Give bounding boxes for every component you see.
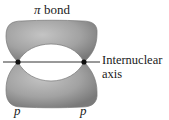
internuclear-axis-label: Internuclear axis (102, 53, 162, 81)
nucleus-right (81, 59, 86, 64)
axis-label-line2: axis (102, 67, 162, 81)
nucleus-left (15, 59, 20, 64)
p-orbital-right-label: p (80, 103, 87, 119)
axis-label-line1: Internuclear (102, 53, 162, 67)
top-lobe (6, 20, 97, 62)
bottom-lobe (6, 62, 97, 108)
p-orbital-left-label: p (14, 103, 21, 119)
